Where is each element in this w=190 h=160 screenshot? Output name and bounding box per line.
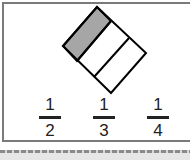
option-one-half[interactable]: 1 2 [38, 95, 62, 140]
denominator: 4 [146, 121, 170, 140]
denominator: 2 [38, 121, 62, 140]
option-one-third[interactable]: 1 3 [92, 95, 116, 140]
option-one-quarter[interactable]: 1 4 [146, 95, 170, 140]
denominator: 3 [92, 121, 116, 140]
divider-line-2 [94, 38, 129, 77]
numerator: 1 [92, 95, 116, 114]
fraction-bar [147, 116, 169, 119]
numerator: 1 [146, 95, 170, 114]
fraction-bar [93, 116, 115, 119]
fraction-bar [39, 116, 61, 119]
bottom-shade [0, 153, 190, 160]
numerator: 1 [38, 95, 62, 114]
